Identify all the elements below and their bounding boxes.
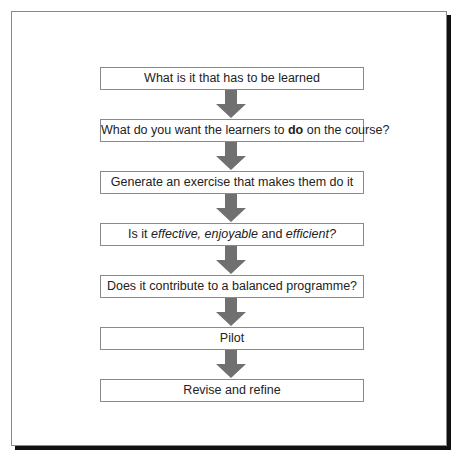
step-text: What do you want the learners to <box>101 123 288 137</box>
step-text-italic: efficient? <box>286 227 336 241</box>
down-arrow-icon <box>216 142 246 170</box>
step-text-bold: do <box>288 123 303 137</box>
down-arrow-icon <box>216 194 246 222</box>
step-4-evaluate-exercise: Is it effective, enjoyable and efficient… <box>100 223 364 246</box>
step-6-pilot: Pilot <box>100 327 364 350</box>
step-text: Is it <box>128 227 151 241</box>
step-text: What is it that has to be learned <box>144 71 320 85</box>
step-7-revise-refine: Revise and refine <box>100 379 364 402</box>
step-text: Pilot <box>220 331 244 345</box>
step-text: Does it contribute to a balanced program… <box>107 279 357 293</box>
step-5-balanced-programme: Does it contribute to a balanced program… <box>100 275 364 298</box>
step-text-italic: effective, enjoyable <box>151 227 258 241</box>
down-arrow-icon <box>216 350 246 378</box>
step-text: Revise and refine <box>183 383 280 397</box>
step-text: on the course? <box>303 123 389 137</box>
step-1-what-to-learn: What is it that has to be learned <box>100 67 364 90</box>
down-arrow-icon <box>216 246 246 274</box>
step-text: Generate an exercise that makes them do … <box>111 175 354 189</box>
down-arrow-icon <box>216 90 246 118</box>
down-arrow-icon <box>216 298 246 326</box>
step-3-generate-exercise: Generate an exercise that makes them do … <box>100 171 364 194</box>
step-text: and <box>258 227 286 241</box>
step-2-what-learners-do: What do you want the learners to do on t… <box>100 119 364 142</box>
